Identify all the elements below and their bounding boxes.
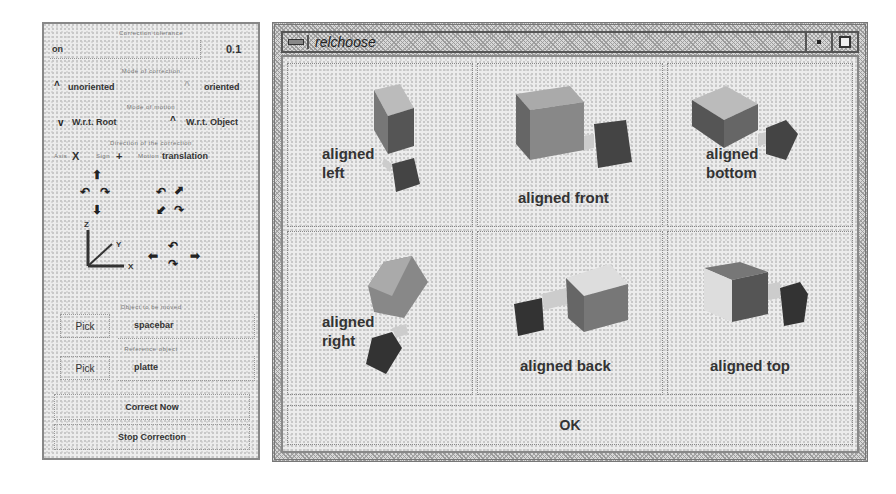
correct-now-button[interactable]: Correct Now [54, 394, 250, 420]
ok-button[interactable]: OK [287, 405, 853, 445]
option-aligned-bottom[interactable]: aligned bottom [667, 63, 853, 227]
motion-label: Motion [138, 153, 159, 159]
axis-x-label: X [128, 262, 133, 271]
relchoose-window: relchoose aligned left alig [272, 22, 868, 462]
axis-value[interactable]: X [72, 150, 79, 162]
reference-field[interactable]: platte [118, 356, 255, 381]
radio-root-icon[interactable]: v [58, 117, 64, 129]
motion-value[interactable]: translation [162, 151, 208, 161]
aligned-left-cubes-icon [288, 64, 474, 228]
tolerance-name-field[interactable]: on [50, 40, 201, 59]
radio-oriented-icon[interactable]: ^ [184, 80, 190, 92]
axis-z-label: Z [84, 220, 89, 229]
axis-y-label: Y [116, 240, 121, 249]
pick-reference-button[interactable]: Pick [60, 356, 110, 380]
aligned-right-cubes-icon [288, 232, 474, 396]
correction-panel: Correction tolerance on 0.1 Mode of corr… [42, 22, 260, 460]
move-left-button[interactable]: ⬅ [148, 250, 158, 262]
direction-label: Direction of the correction [44, 140, 258, 146]
sign-label: Sign [96, 153, 110, 159]
mode-option-oriented[interactable]: oriented [204, 82, 240, 92]
radio-unoriented-icon[interactable]: ^ [54, 80, 60, 92]
sign-value[interactable]: + [116, 150, 122, 162]
axis-label: Axis [54, 153, 67, 159]
rotate-ccw-2-button[interactable]: ↶ [156, 186, 166, 198]
minimize-button[interactable] [805, 33, 831, 51]
mode-option-unoriented[interactable]: unoriented [68, 82, 115, 92]
maximize-icon [839, 36, 851, 48]
reference-label: Reference object [44, 346, 258, 352]
move-up-button[interactable]: ⬆ [92, 169, 102, 181]
option-label-line2: right [322, 331, 355, 350]
rotate-cw-button[interactable]: ↷ [100, 186, 110, 198]
frame-option-object[interactable]: W.r.t. Object [186, 117, 238, 127]
option-label-line1: aligned [706, 144, 759, 163]
option-label-line1: aligned [322, 144, 375, 163]
reference-value: platte [134, 362, 158, 372]
aligned-bottom-cubes-icon [668, 64, 854, 228]
frame-option-root[interactable]: W.r.t. Root [72, 117, 117, 127]
tolerance-label: Correction tolerance [44, 30, 258, 36]
option-label-line1: aligned front [518, 188, 609, 207]
tolerance-name: on [52, 44, 63, 54]
radio-object-icon[interactable]: ^ [170, 115, 176, 127]
move-diag-ne-button[interactable]: ⬈ [174, 184, 184, 196]
rotate-cw-2-button[interactable]: ↷ [174, 204, 184, 216]
axes-icon [80, 224, 150, 272]
option-label-line2: left [322, 163, 345, 182]
move-right-button[interactable]: ➡ [190, 250, 200, 262]
window-title: relchoose [315, 34, 376, 50]
option-label-line1: aligned [322, 312, 375, 331]
move-down-button[interactable]: ⬇ [92, 204, 102, 216]
window-content: aligned left aligned front aligned bot [281, 55, 859, 453]
option-aligned-front[interactable]: aligned front [477, 63, 663, 227]
option-label-line2: bottom [706, 163, 757, 182]
option-label-line1: aligned top [710, 356, 790, 375]
window-menu-icon [288, 39, 304, 45]
stop-correction-button[interactable]: Stop Correction [54, 424, 250, 450]
rotate-up-button[interactable]: ↶ [168, 240, 178, 252]
move-diag-sw-button[interactable]: ⬋ [156, 204, 166, 216]
maximize-button[interactable] [831, 33, 857, 51]
object-field[interactable]: spacebar [118, 314, 255, 339]
option-aligned-right[interactable]: aligned right [287, 231, 473, 395]
rotate-ccw-button[interactable]: ↶ [80, 186, 90, 198]
pick-object-button[interactable]: Pick [60, 314, 110, 338]
rotate-down-button[interactable]: ↷ [168, 258, 178, 270]
mode-label: Mode of correction [44, 68, 258, 74]
option-aligned-left[interactable]: aligned left [287, 63, 473, 227]
object-label: Object to be moved [44, 304, 258, 310]
title-bar[interactable]: relchoose [281, 31, 859, 53]
window-menu-button[interactable] [285, 35, 309, 49]
frame-label: Mode of motion [44, 104, 258, 110]
tolerance-value[interactable]: 0.1 [226, 43, 241, 55]
object-value: spacebar [134, 320, 174, 330]
option-label-line1: aligned back [520, 356, 611, 375]
minimize-icon [817, 40, 821, 44]
option-aligned-top[interactable]: aligned top [667, 231, 853, 395]
option-aligned-back[interactable]: aligned back [477, 231, 663, 395]
